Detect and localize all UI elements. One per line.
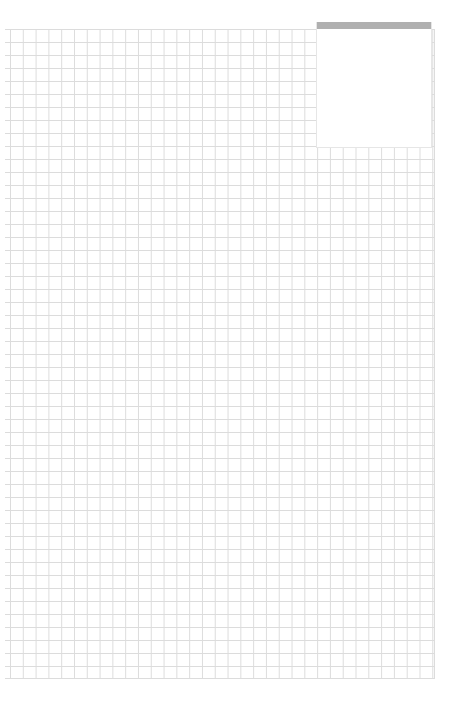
- page: [0, 0, 451, 701]
- panel-header-bar[interactable]: [317, 22, 431, 29]
- panel-body: [317, 29, 431, 147]
- overlay-panel: [316, 22, 432, 148]
